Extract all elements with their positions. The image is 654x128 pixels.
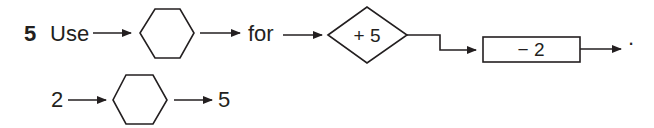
- word-use: Use: [50, 21, 89, 46]
- end-punctuation: .: [628, 25, 634, 50]
- diamond-label: + 5: [354, 25, 381, 46]
- rectangle-label: − 2: [518, 39, 545, 60]
- example-hexagon-machine: [113, 75, 167, 124]
- example-input: 2: [51, 87, 63, 112]
- elbow-connector-arrow: [407, 35, 476, 50]
- problem-number: 5: [24, 21, 36, 46]
- function-machine-diagram: 5 Use for + 5 − 2 . 2 5: [0, 0, 654, 128]
- hexagon-blank-machine: [140, 9, 194, 58]
- example-output: 5: [218, 87, 230, 112]
- word-for: for: [248, 21, 274, 46]
